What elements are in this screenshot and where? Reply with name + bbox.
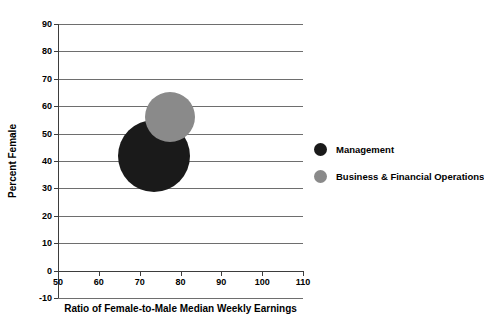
gridline-y [58, 51, 303, 52]
x-tick-label: 80 [175, 277, 185, 287]
y-tick-mark [54, 79, 58, 80]
x-tick-label: 110 [296, 277, 311, 287]
gridline-y [58, 188, 303, 189]
x-tick-mark [181, 271, 182, 276]
x-tick-label: 60 [94, 277, 104, 287]
x-tick-label: 90 [216, 277, 226, 287]
y-tick-label: 50 [42, 129, 52, 139]
y-tick-mark [54, 216, 58, 217]
x-axis-title: Ratio of Female-to-Male Median Weekly Ea… [58, 303, 303, 314]
x-tick-mark [140, 271, 141, 276]
legend-marker-icon [314, 170, 327, 183]
gridline-y [58, 24, 303, 25]
legend-item[interactable]: Business & Financial Operations [314, 163, 484, 190]
y-tick-mark [54, 243, 58, 244]
y-tick-mark [54, 106, 58, 107]
y-tick-mark [54, 188, 58, 189]
y-tick-mark [54, 161, 58, 162]
y-axis-line [58, 24, 59, 298]
bubble-business-financial-operations[interactable] [145, 92, 195, 142]
legend-label: Management [336, 144, 394, 155]
y-tick-mark [54, 298, 58, 299]
y-tick-label: 60 [42, 101, 52, 111]
chart-legend: ManagementBusiness & Financial Operation… [314, 136, 484, 190]
x-tick-mark [58, 271, 59, 276]
x-tick-label: 100 [255, 277, 270, 287]
y-tick-label: 30 [42, 183, 52, 193]
y-tick-label: 40 [42, 156, 52, 166]
legend-marker-icon [314, 143, 327, 156]
y-axis-title: Percent Female [7, 124, 18, 198]
y-tick-label: 0 [47, 266, 52, 276]
y-tick-label: 20 [42, 211, 52, 221]
gridline-y [58, 298, 303, 299]
gridline-y [58, 79, 303, 80]
gridline-y [58, 243, 303, 244]
legend-label: Business & Financial Operations [336, 171, 484, 182]
x-tick-label: 70 [135, 277, 145, 287]
x-tick-mark [221, 271, 222, 276]
y-tick-label: 90 [42, 19, 52, 29]
legend-item[interactable]: Management [314, 136, 484, 163]
y-tick-label: 70 [42, 74, 52, 84]
x-tick-mark [262, 271, 263, 276]
gridline-y [58, 216, 303, 217]
y-tick-label: 80 [42, 46, 52, 56]
y-tick-mark [54, 134, 58, 135]
x-tick-label: 50 [53, 277, 63, 287]
y-tick-mark [54, 24, 58, 25]
y-tick-mark [54, 51, 58, 52]
x-tick-mark [99, 271, 100, 276]
y-tick-label: 10 [42, 238, 52, 248]
y-tick-label: -10 [39, 293, 52, 303]
x-tick-mark [303, 271, 304, 276]
